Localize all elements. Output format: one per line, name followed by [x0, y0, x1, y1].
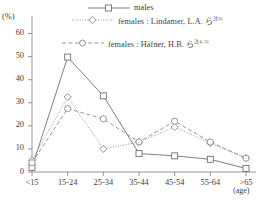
data-point-square	[207, 156, 213, 162]
data-point-circle	[65, 105, 71, 111]
y-tick-label: 40	[4, 74, 24, 83]
data-point-square	[65, 54, 71, 60]
data-point-square	[136, 151, 142, 157]
data-point-circle	[207, 139, 213, 145]
y-tick-label: 20	[4, 120, 24, 129]
data-point-circle	[29, 160, 35, 166]
y-tick-label: 30	[4, 97, 24, 106]
x-tick-label: >65	[226, 178, 262, 187]
y-tick-label: 60	[4, 28, 24, 37]
data-point-circle	[172, 118, 178, 124]
chart-figure: males females : Lindamer, L.A. ら注3) fema…	[0, 0, 262, 203]
y-tick-label: 0	[4, 167, 24, 176]
x-tick-label: 35-44	[119, 178, 159, 187]
x-tick-label: <15	[12, 178, 52, 187]
chart-plot-area	[0, 0, 262, 203]
data-point-square	[100, 93, 106, 99]
data-point-circle	[243, 155, 249, 161]
data-point-square	[172, 153, 178, 159]
data-point-circle	[100, 116, 106, 122]
y-tick-label: 50	[4, 51, 24, 60]
x-tick-label: 45-54	[155, 178, 195, 187]
data-point-diamond	[100, 145, 107, 152]
x-tick-label: 55-64	[190, 178, 230, 187]
data-point-circle	[136, 139, 142, 145]
x-tick-label: 15-24	[48, 178, 88, 187]
y-tick-label: 10	[4, 143, 24, 152]
data-point-diamond	[64, 93, 71, 100]
x-tick-label: 25-34	[83, 178, 123, 187]
data-point-square	[243, 166, 249, 172]
